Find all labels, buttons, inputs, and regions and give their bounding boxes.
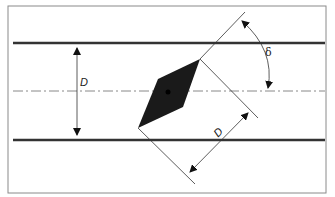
disc-diameter-dimension xyxy=(190,113,248,172)
butterfly-valve-diagram: D D δ xyxy=(0,0,335,197)
valve-pivot xyxy=(166,90,171,95)
disc-diameter-label: D xyxy=(211,125,225,139)
angle-label: δ xyxy=(265,46,272,59)
pipe-diameter-label: D xyxy=(80,76,88,88)
diagram-canvas: D D δ xyxy=(0,0,335,197)
extension-line-lower xyxy=(138,128,195,184)
disc-axis-line xyxy=(200,12,245,59)
extension-line-upper xyxy=(200,59,258,118)
